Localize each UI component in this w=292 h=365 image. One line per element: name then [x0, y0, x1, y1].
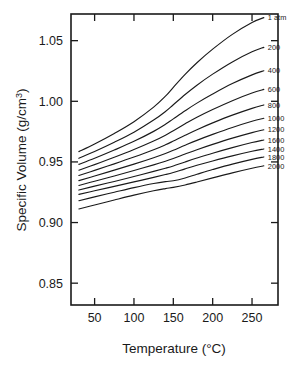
series-labels-group: 1 atm20040060080010001200160014001800200…	[268, 13, 286, 170]
y-tick-label: 1.00	[39, 95, 63, 109]
series-label-1600: 1600	[268, 136, 284, 145]
series-label-200: 200	[268, 43, 280, 52]
data-curve-1800	[79, 157, 264, 201]
y-axis-title-group: Specific Volume (g/cm3)	[14, 88, 29, 231]
series-label-600: 600	[268, 85, 280, 94]
y-tick-label: 0.90	[39, 216, 63, 230]
x-tick-label: 50	[88, 311, 102, 325]
series-label-1-atm: 1 atm	[268, 13, 286, 22]
series-label-400: 400	[268, 66, 280, 75]
data-curves-group	[79, 18, 264, 209]
data-curve-400	[79, 71, 264, 165]
specific-volume-chart-figure: 50100150200250 0.850.900.951.001.05 1 at…	[0, 0, 292, 365]
x-axis-title: Temperature (°C)	[122, 341, 226, 356]
data-curve-600	[79, 89, 264, 170]
data-curve-1000	[79, 118, 264, 180]
x-axis-ticks	[95, 14, 252, 305]
chart-canvas: 50100150200250 0.850.900.951.001.05 1 at…	[0, 0, 292, 365]
y-axis-tick-labels: 0.850.900.951.001.05	[39, 34, 63, 291]
y-axis-title: Specific Volume (g/cm3)	[14, 88, 29, 231]
series-label-2000: 2000	[268, 162, 284, 171]
axes-frame-group	[71, 14, 278, 305]
y-tick-label: 0.85	[39, 277, 63, 291]
data-curve-800	[79, 105, 264, 176]
series-label-800: 800	[268, 101, 280, 110]
x-axis-tick-labels: 50100150200250	[88, 311, 263, 325]
plot-frame	[71, 14, 278, 305]
y-tick-label: 0.95	[39, 155, 63, 169]
data-curve-1400	[79, 140, 264, 190]
series-label-1200: 1200	[268, 125, 284, 134]
x-tick-label: 100	[124, 311, 145, 325]
x-tick-label: 200	[202, 311, 223, 325]
series-label-1800: 1800	[268, 153, 284, 162]
series-label-1000: 1000	[268, 114, 284, 123]
x-tick-label: 150	[163, 311, 184, 325]
x-tick-label: 250	[242, 311, 263, 325]
y-tick-label: 1.05	[39, 34, 63, 48]
